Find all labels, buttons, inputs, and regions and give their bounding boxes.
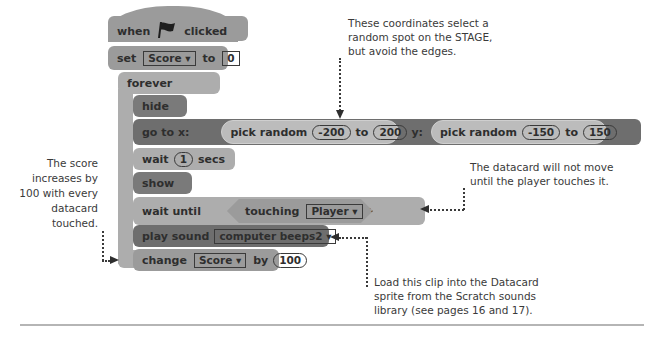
- touching-label: touching: [245, 205, 299, 218]
- set-variable-block[interactable]: set Score ▾ to 0: [108, 46, 228, 70]
- wait-until-label: wait until: [142, 205, 201, 218]
- score-annotation: The score increases by 100 with every da…: [2, 156, 98, 231]
- annotation-line: 100 with every: [2, 186, 98, 201]
- play-sound-label: play sound: [142, 230, 209, 243]
- when-label: when: [117, 25, 150, 38]
- by-label: by: [253, 254, 268, 267]
- page-divider: [20, 324, 644, 326]
- annotation-line: random spot on the STAGE,: [348, 30, 492, 44]
- pick-random-x-reporter[interactable]: pick random -200 to 200: [221, 120, 399, 144]
- annotation-line: until the player touches it.: [470, 174, 613, 188]
- arrow-left-icon: [330, 233, 339, 241]
- pick-random-y-reporter[interactable]: pick random -150 to 150: [431, 120, 607, 144]
- when-flag-clicked-block[interactable]: when clicked: [108, 0, 248, 40]
- change-variable-block[interactable]: change Score ▾ by 100: [133, 249, 279, 271]
- goto-xy-block[interactable]: go to x: pick random -200 to 200 y: pick…: [133, 119, 641, 145]
- coordinates-annotation: These coordinates select a random spot o…: [348, 16, 492, 58]
- leader-line: [102, 231, 104, 261]
- leader-line: [339, 237, 367, 239]
- annotation-line: datacard: [2, 201, 98, 216]
- datacard-annotation: The datacard will not move until the pla…: [470, 160, 613, 188]
- x-from-input[interactable]: -200: [312, 125, 350, 140]
- forever-block[interactable]: forever: [118, 72, 220, 94]
- annotation-line: but avoid the edges.: [348, 44, 492, 58]
- change-label: change: [142, 254, 187, 267]
- touching-condition[interactable]: touching Player ▾ ?: [227, 199, 373, 223]
- question-mark: ?: [370, 205, 376, 218]
- wait-seconds-input[interactable]: 1: [174, 152, 193, 167]
- annotation-line: increases by: [2, 171, 98, 186]
- annotation-line: sprite from the Scratch sounds: [374, 289, 539, 303]
- sound-dropdown[interactable]: computer beeps2 ▾: [214, 229, 336, 244]
- touching-target-dropdown[interactable]: Player ▾: [306, 204, 362, 219]
- arrow-left-icon: [420, 205, 429, 213]
- annotation-line: touched.: [2, 216, 98, 231]
- set-label: set: [117, 52, 136, 65]
- y-to-input[interactable]: 150: [583, 125, 617, 140]
- variable-dropdown[interactable]: Score ▾: [194, 253, 246, 268]
- y-label: y:: [411, 126, 423, 139]
- green-flag-icon: [156, 21, 178, 42]
- wait-until-block[interactable]: wait until touching Player ▾ ?: [133, 197, 425, 225]
- sound-annotation: Load this clip into the Datacard sprite …: [374, 275, 539, 317]
- annotation-line: library (see pages 16 and 17).: [374, 303, 539, 317]
- pick-random-label: pick random: [230, 126, 307, 139]
- annotation-line: The score: [2, 156, 98, 171]
- secs-label: secs: [198, 153, 225, 166]
- arrow-down-icon: [336, 110, 344, 119]
- annotation-line: These coordinates select a: [348, 16, 492, 30]
- x-to-input[interactable]: 200: [373, 125, 407, 140]
- to-label: to: [565, 126, 578, 139]
- leader-line: [463, 188, 465, 210]
- leader-line: [339, 58, 341, 114]
- leader-line: [102, 260, 110, 262]
- arrow-right-icon: [110, 256, 119, 264]
- annotation-line: The datacard will not move: [470, 160, 613, 174]
- to-label: to: [356, 126, 369, 139]
- clicked-label: clicked: [184, 25, 227, 38]
- show-label: show: [142, 177, 174, 190]
- wait-secs-block[interactable]: wait 1 secs: [133, 148, 235, 170]
- to-label: to: [203, 52, 216, 65]
- hide-block[interactable]: hide: [133, 95, 187, 117]
- leader-line: [366, 237, 368, 287]
- change-value-input[interactable]: 100: [273, 253, 307, 268]
- forever-label: forever: [127, 77, 172, 90]
- value-input[interactable]: 0: [222, 51, 239, 66]
- leader-line: [430, 209, 464, 211]
- pick-random-label: pick random: [440, 126, 517, 139]
- goto-x-label: go to x:: [142, 126, 189, 139]
- variable-dropdown[interactable]: Score ▾: [143, 51, 195, 66]
- annotation-line: Load this clip into the Datacard: [374, 275, 539, 289]
- hide-label: hide: [142, 100, 169, 113]
- play-sound-block[interactable]: play sound computer beeps2 ▾: [133, 225, 329, 247]
- show-block[interactable]: show: [133, 172, 192, 194]
- y-from-input[interactable]: -150: [522, 125, 560, 140]
- wait-label: wait: [142, 153, 169, 166]
- forever-arm: [118, 89, 133, 264]
